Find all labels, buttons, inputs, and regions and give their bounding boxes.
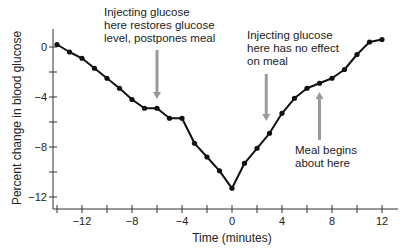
x-tick-label: 0 [229, 215, 235, 227]
data-point [229, 186, 234, 191]
data-point [242, 161, 247, 166]
data-point [342, 67, 347, 72]
data-point [129, 97, 134, 102]
x-tick-label: 12 [376, 215, 388, 227]
data-point [367, 39, 372, 44]
y-tick-label: −8 [34, 141, 47, 153]
data-point [292, 96, 297, 101]
arrow-down-icon [153, 50, 161, 99]
data-point [192, 141, 197, 146]
data-point [254, 146, 259, 151]
data-point [204, 154, 209, 159]
y-tick-label: 0 [41, 41, 47, 53]
x-tick-label: −4 [176, 215, 189, 227]
data-point [217, 168, 222, 173]
data-point [329, 76, 334, 81]
annotation-meal-begins: Meal begins about here [295, 144, 357, 170]
x-tick-label: −8 [126, 215, 139, 227]
x-tick-label: 8 [329, 215, 335, 227]
data-point [154, 106, 159, 111]
data-point [142, 106, 147, 111]
data-point [267, 131, 272, 136]
data-point [79, 56, 84, 61]
data-point [117, 86, 122, 91]
arrow-down-icon [262, 74, 270, 121]
data-point [67, 49, 72, 54]
data-point [167, 116, 172, 121]
x-axis-title: Time (minutes) [192, 231, 272, 245]
data-point [54, 42, 59, 47]
data-point [104, 76, 109, 81]
annotation-restores-glucose: Injecting glucose here restores glucose … [104, 6, 215, 45]
y-tick-label: −12 [28, 191, 47, 203]
annotation-no-effect: Injecting glucose here has no effect on … [247, 29, 339, 68]
data-point [279, 111, 284, 116]
arrow-up-icon [316, 92, 324, 140]
y-tick-label: −4 [34, 91, 47, 103]
data-point [379, 37, 384, 42]
data-point [354, 52, 359, 57]
y-axis-title: Percent change in blood glucose [10, 31, 24, 205]
data-point [317, 81, 322, 86]
data-point [92, 66, 97, 71]
x-tick-label: 4 [279, 215, 285, 227]
data-point [179, 116, 184, 121]
data-point [304, 86, 309, 91]
x-tick-label: −12 [73, 215, 92, 227]
